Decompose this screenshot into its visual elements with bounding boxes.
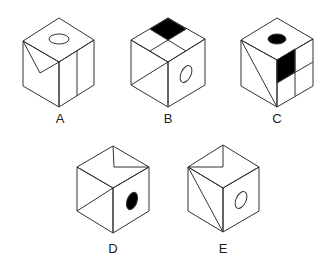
cube-c [241,18,313,107]
option-label-b: B [164,111,173,126]
option-label-c: C [272,111,281,126]
cube-a [23,18,94,107]
cube-e [188,145,259,232]
cube-b [131,18,205,107]
option-label-d: D [108,241,117,256]
option-label-e: E [219,241,228,256]
cube-puzzle-figure [0,0,329,263]
cube-d [77,146,149,233]
option-label-a: A [56,111,65,126]
